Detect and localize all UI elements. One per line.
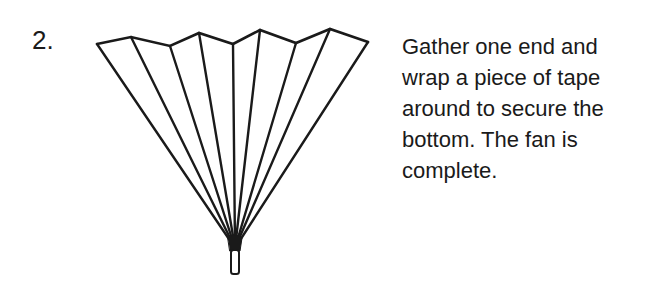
instruction-line: bottom. The fan is [402, 124, 652, 155]
fan-fold-lines [97, 29, 368, 248]
fan-gather-knot [228, 235, 242, 251]
instruction-line: Gather one end and [402, 31, 652, 62]
instruction-text: Gather one end and wrap a piece of tape … [402, 31, 652, 186]
instruction-line: wrap a piece of tape [402, 62, 652, 93]
instruction-line: complete. [402, 155, 652, 186]
tape-handle [231, 250, 239, 274]
instruction-line: around to secure the [402, 93, 652, 124]
